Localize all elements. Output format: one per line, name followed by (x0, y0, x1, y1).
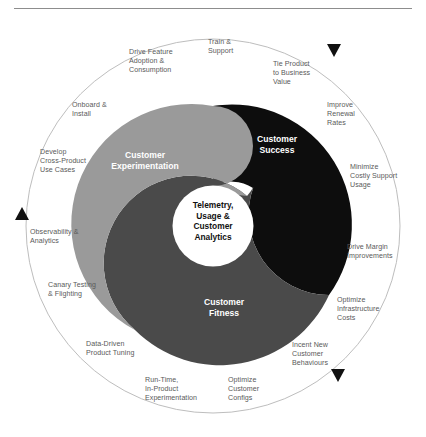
outer-label-train-and-support: Train & Support (208, 38, 272, 56)
outer-label-run-time-in-product: Run-Time, In-Product Experimentation (145, 376, 227, 403)
outer-label-data-driven-product-tuning: Data-Driven Product Tuning (86, 340, 164, 358)
outer-label-optimize-customer-configs: Optimize Customer Configs (228, 376, 290, 403)
ring-marker-top-right-icon (327, 44, 341, 57)
outer-label-drive-feature-adoption: Drive Feature Adoption & Consumption (129, 48, 209, 75)
outer-label-optimize-infrastructure: Optimize Infrastructure Costs (337, 296, 409, 323)
ring-marker-bottom-right-icon (331, 369, 345, 382)
core-label-telemetry-usage-customer-analytics: Telemetry, Usage & Customer Analytics (170, 200, 256, 242)
outer-label-drive-margin-improvements: Drive Margin Improvements (347, 243, 423, 261)
outer-label-canary-testing-flighting: Canary Testing & Flighting (48, 281, 124, 299)
outer-label-improve-renewal-rates: Improve Renewal Rates (327, 101, 389, 128)
outer-label-observability-analytics: Observability & Analytics (30, 228, 104, 246)
segment-label-customer-success: Customer Success (241, 134, 313, 155)
outer-label-minimize-costly-support: Minimize Costly Support Usage (350, 163, 422, 190)
outer-label-tie-product-to-business: Tie Product to Business Value (273, 60, 345, 87)
diagram-canvas: Customer Experimentation Customer Succes… (0, 0, 426, 437)
outer-label-develop-cross-product: Develop Cross-Product Use Cases (40, 148, 114, 175)
outer-label-incent-new-customer: Incent New Customer Behaviours (292, 341, 360, 368)
outer-label-onboard-and-install: Onboard & Install (72, 101, 134, 119)
segment-label-customer-fitness: Customer Fitness (188, 297, 260, 318)
